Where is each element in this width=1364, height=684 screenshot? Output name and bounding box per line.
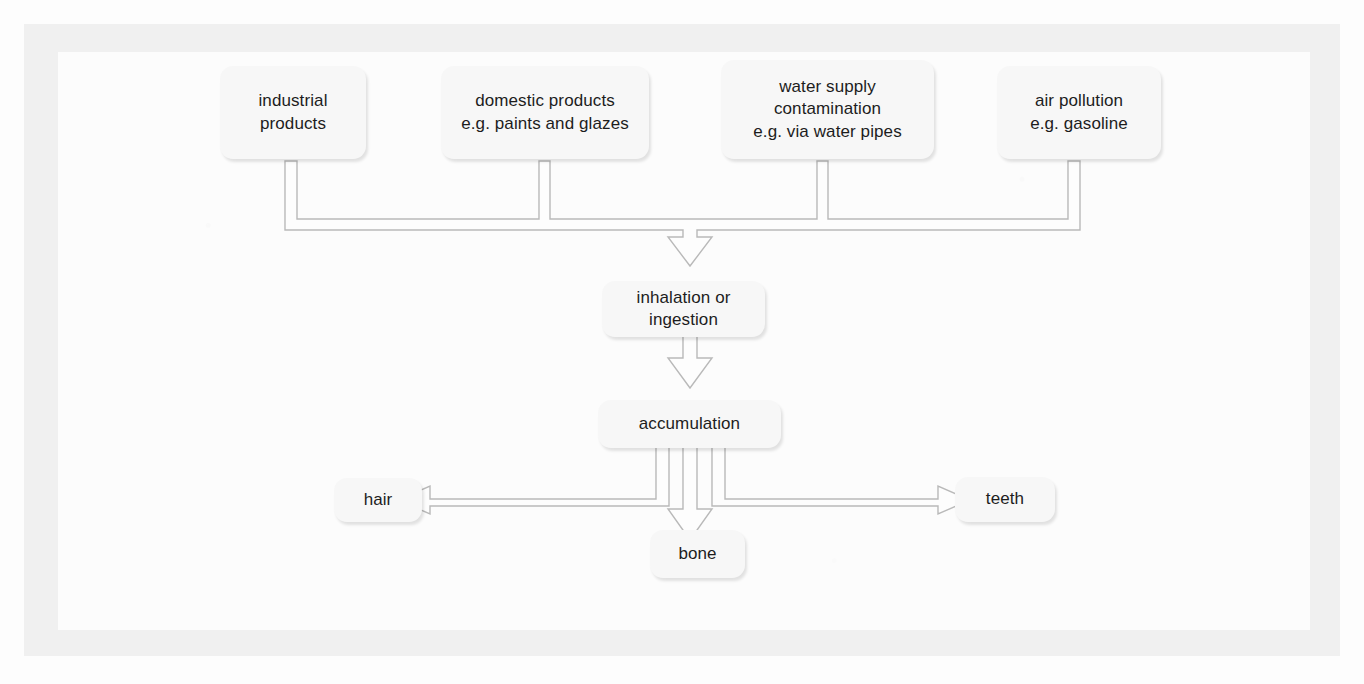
node-domestic-products[interactable]: domestic products e.g. paints and glazes bbox=[441, 66, 649, 159]
node-air-pollution[interactable]: air pollution e.g. gasoline bbox=[997, 66, 1161, 159]
node-water-supply-contamination[interactable]: water supply contamination e.g. via wate… bbox=[721, 60, 934, 159]
flowchart-page: industrial products domestic products e.… bbox=[0, 0, 1364, 684]
node-accumulation[interactable]: accumulation bbox=[598, 400, 781, 448]
node-bone[interactable]: bone bbox=[650, 530, 745, 578]
node-industrial-products[interactable]: industrial products bbox=[220, 66, 366, 159]
node-inhalation-or-ingestion[interactable]: inhalation or ingestion bbox=[602, 281, 765, 337]
node-hair[interactable]: hair bbox=[334, 478, 422, 522]
node-teeth[interactable]: teeth bbox=[955, 477, 1055, 522]
